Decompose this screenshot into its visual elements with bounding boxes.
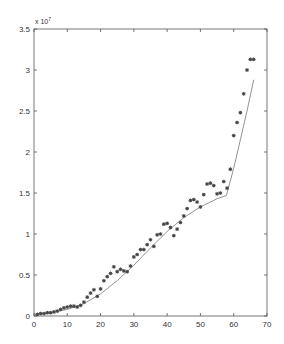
data-point-marker: [62, 306, 66, 310]
data-point-marker: [72, 304, 76, 308]
data-point-marker: [52, 310, 56, 314]
data-point-marker: [35, 312, 39, 316]
data-point-marker: [235, 120, 239, 124]
data-point-marker: [95, 294, 99, 298]
x-tick-label: 70: [263, 320, 272, 329]
data-point-marker: [135, 253, 139, 257]
data-point-marker: [232, 134, 236, 138]
y-multiplier-label: x 107: [35, 16, 51, 25]
data-point-marker: [42, 312, 46, 316]
y-tick-label: 1: [26, 230, 31, 239]
data-point-marker: [129, 264, 133, 268]
data-point-marker: [185, 207, 189, 211]
x-tick-label: 10: [63, 320, 72, 329]
y-tick-label: 2: [26, 148, 31, 157]
data-point-marker: [242, 92, 246, 96]
data-point-marker: [155, 233, 159, 237]
data-point-marker: [149, 238, 153, 242]
data-point-marker: [168, 225, 172, 229]
data-point-marker: [228, 167, 232, 171]
y-tick-label: 2.5: [19, 107, 31, 116]
x-tick-label: 30: [129, 320, 138, 329]
data-point-marker: [202, 193, 206, 197]
data-point-marker: [152, 244, 156, 248]
data-point-marker: [212, 184, 216, 188]
plot-box: [34, 29, 267, 316]
data-point-marker: [218, 191, 222, 195]
data-point-marker: [165, 221, 169, 225]
data-point-marker: [125, 270, 129, 274]
data-point-marker: [252, 57, 256, 61]
data-point-marker: [109, 271, 113, 275]
y-tick-label: 1.5: [19, 189, 31, 198]
data-point-marker: [175, 227, 179, 231]
data-point-marker: [92, 288, 96, 292]
data-point-marker: [115, 270, 119, 274]
data-point-marker: [142, 248, 146, 252]
data-point-marker: [162, 222, 166, 226]
data-point-marker: [195, 200, 199, 204]
y-tick-label: 0.5: [19, 271, 31, 280]
data-point-marker: [158, 232, 162, 236]
data-point-marker: [99, 287, 103, 291]
x-tick-label: 20: [96, 320, 105, 329]
data-point-marker: [145, 243, 149, 247]
data-point-marker: [85, 295, 89, 299]
chart: 00.511.522.533.5 010203040506070 x 107: [0, 0, 284, 344]
data-point-marker: [225, 186, 229, 190]
y-tick-label: 3.5: [19, 25, 31, 34]
data-point-marker: [89, 291, 93, 295]
data-point-marker: [65, 305, 69, 309]
data-point-marker: [178, 221, 182, 225]
data-point-marker: [238, 111, 242, 115]
data-point-marker: [112, 265, 116, 269]
x-tick-label: 60: [229, 320, 238, 329]
plot-area: [34, 29, 267, 316]
data-point-marker: [79, 303, 83, 307]
x-tick-label: 50: [196, 320, 205, 329]
data-point-marker: [245, 68, 249, 72]
data-point-marker: [172, 234, 176, 238]
x-tick-label: 0: [32, 320, 37, 329]
data-point-marker: [82, 300, 86, 304]
data-point-marker: [102, 279, 106, 283]
data-point-marker: [132, 255, 136, 259]
data-point-marker: [205, 182, 209, 186]
data-point-marker: [222, 180, 226, 184]
data-point-marker: [215, 192, 219, 196]
data-point-marker: [122, 269, 126, 273]
data-point-marker: [182, 214, 186, 218]
data-point-marker: [49, 311, 53, 315]
data-point-marker: [198, 205, 202, 209]
data-point-marker: [188, 198, 192, 202]
data-point-marker: [192, 198, 196, 202]
y-tick-label: 0: [26, 312, 31, 321]
y-tick-label: 3: [26, 66, 31, 75]
data-point-marker: [208, 181, 212, 185]
data-point-marker: [105, 275, 109, 279]
x-tick-label: 40: [163, 320, 172, 329]
